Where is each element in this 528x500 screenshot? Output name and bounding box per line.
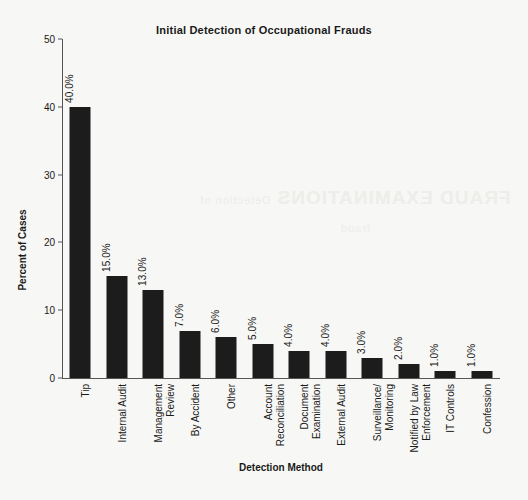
bar xyxy=(216,337,237,378)
bar-group: 5.0% xyxy=(245,39,282,378)
y-axis-tick-label: 0 xyxy=(49,373,55,384)
bar-value-label: 3.0% xyxy=(356,330,367,353)
y-axis-tick-label: 40 xyxy=(44,101,55,112)
bar xyxy=(179,331,200,378)
bar-group: 40.0% xyxy=(62,39,99,378)
bar xyxy=(143,290,164,378)
bar-value-label: 7.0% xyxy=(174,303,185,326)
x-axis-category-label: Internal Audit xyxy=(117,384,129,442)
bar-value-label: 15.0% xyxy=(101,243,112,272)
bar-group: 4.0% xyxy=(281,39,318,378)
bar xyxy=(325,351,346,378)
y-axis-tick-label: 30 xyxy=(44,169,55,180)
x-axis-category-label: External Audit xyxy=(336,384,348,446)
bar-group: 7.0% xyxy=(172,39,209,378)
bar xyxy=(106,276,127,378)
bar-group: 1.0% xyxy=(464,39,501,378)
chart-title: Initial Detection of Occupational Frauds xyxy=(0,24,528,36)
bar-value-label: 1.0% xyxy=(429,344,440,367)
bar-value-label: 4.0% xyxy=(320,324,331,347)
bar-value-label: 6.0% xyxy=(210,310,221,333)
x-axis-category-label: Other xyxy=(226,384,238,409)
y-axis-tick-label: 10 xyxy=(44,305,55,316)
bar-value-label: 1.0% xyxy=(466,344,477,367)
bar-value-label: 2.0% xyxy=(393,337,404,360)
x-axis-category-label: By Accident xyxy=(190,384,202,436)
x-axis-category-label: AccountReconciliation xyxy=(263,384,286,446)
x-axis-category-label: Tip xyxy=(80,384,92,398)
bar xyxy=(398,364,419,378)
bar xyxy=(471,371,492,378)
bar xyxy=(252,344,273,378)
bar-value-label: 5.0% xyxy=(247,317,258,340)
bar-group: 1.0% xyxy=(427,39,464,378)
bar xyxy=(289,351,310,378)
bar-group: 13.0% xyxy=(135,39,172,378)
y-axis-tick-label: 50 xyxy=(44,34,55,45)
x-axis-category-label: Notified by LawEnforcement xyxy=(409,384,432,452)
bar-group: 15.0% xyxy=(99,39,136,378)
bar xyxy=(435,371,456,378)
bar xyxy=(362,358,383,378)
bar-chart: Initial Detection of Occupational Frauds… xyxy=(0,0,528,500)
bar-group: 6.0% xyxy=(208,39,245,378)
bar-group: 2.0% xyxy=(391,39,428,378)
x-axis-category-label: Surveillance/Monitoring xyxy=(372,384,395,441)
bar-series: 40.0%15.0%13.0%7.0%6.0%5.0%4.0%4.0%3.0%2… xyxy=(62,39,500,378)
x-axis-category-label: Confession xyxy=(482,384,494,434)
bar xyxy=(70,107,91,378)
bar-group: 3.0% xyxy=(354,39,391,378)
x-axis-category-label: ManagementReview xyxy=(153,384,176,442)
x-axis-category-label: DocumentExamination xyxy=(299,384,322,439)
x-axis-label: Detection Method xyxy=(62,462,500,473)
y-axis-tick-label: 20 xyxy=(44,237,55,248)
bar-group: 4.0% xyxy=(318,39,355,378)
bar-value-label: 40.0% xyxy=(64,74,75,103)
x-axis-category-label: IT Controls xyxy=(445,384,457,433)
bar-value-label: 4.0% xyxy=(283,324,294,347)
y-axis-label: Percent of Cases xyxy=(17,209,28,290)
x-axis-line xyxy=(62,378,500,379)
bar-value-label: 13.0% xyxy=(137,257,148,286)
